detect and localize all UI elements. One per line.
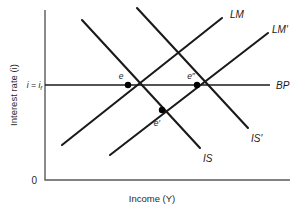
label-is-prime: IS′ [251,133,263,144]
curve-lm [62,18,222,145]
chart-axes [45,10,290,180]
label-point-e-prime: e′ [154,118,161,128]
world-rate-subscript: f [40,85,43,91]
label-point-e: e [119,71,124,81]
chart-canvas: LM LM′ IS IS′ BP e e″ e′ i = if 0 Income… [0,0,304,210]
point-e-double-prime [194,82,200,88]
label-is: IS [203,153,213,164]
point-e-prime [159,107,165,113]
point-e [125,82,131,88]
label-x-axis: Income (Y) [129,193,175,204]
label-y-axis: Interest rate (i) [8,64,19,126]
label-lm: LM [230,9,245,20]
label-lm-prime: LM′ [272,24,289,35]
world-rate-main: i = i [27,80,42,90]
label-origin: 0 [31,175,37,186]
curve-is [82,20,200,148]
label-world-interest-rate: i = if [27,80,43,91]
is-lm-bp-diagram: LM LM′ IS IS′ BP e e″ e′ i = if 0 Income… [0,0,304,210]
label-point-e-double-prime: e″ [187,71,196,81]
label-bp: BP [276,80,290,91]
curve-is-prime [137,8,248,128]
